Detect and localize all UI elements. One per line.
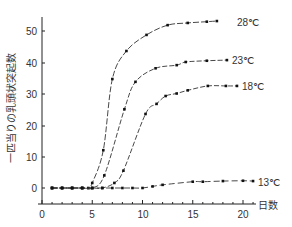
x-tick-20: 20 [237,209,249,220]
data-point [207,85,210,88]
series-layer [51,20,255,190]
x-axis-title: 日数 [258,199,278,211]
data-point [166,24,169,27]
data-point [226,59,229,62]
x-axis [38,200,256,204]
y-axis-title: 一匹当りの乳頭状突起数 [5,53,17,163]
data-point [175,64,178,67]
y-tick-30: 30 [26,89,38,100]
y-tick-40: 40 [26,58,38,69]
data-point [252,180,255,183]
data-point [103,174,106,177]
data-point [186,22,189,25]
data-point [111,78,114,81]
data-point [164,95,167,98]
data-point [91,187,94,190]
data-point [125,50,128,53]
data-point [134,81,137,84]
data-point [71,187,74,190]
data-point [111,187,114,190]
data-point [101,187,104,190]
data-point [222,180,225,183]
series-13c [51,179,255,189]
data-point [155,103,158,106]
data-point [184,61,187,64]
data-point [122,169,125,172]
data-point [242,179,245,182]
series-28c [51,20,218,190]
data-point [161,184,164,187]
data-point [154,67,157,70]
x-tick-0: 0 [39,209,45,220]
x-tick-10: 10 [137,209,149,220]
data-point [202,180,205,183]
series-18c [51,85,239,190]
y-tick-20: 20 [26,121,38,132]
data-point [206,59,209,62]
y-tick-labels: 0 10 20 30 40 50 [26,26,38,194]
data-point [131,187,134,190]
line-chart: 0 10 20 30 40 50 0 5 10 15 20 日数 一匹当りの乳頭… [0,0,292,227]
y-tick-10: 10 [26,152,38,163]
data-point [236,85,239,88]
data-point [123,108,126,111]
data-point [175,92,178,95]
data-point [186,89,189,92]
data-point [225,85,228,88]
x-tick-5: 5 [89,209,95,220]
data-point [102,149,105,152]
data-point [191,180,194,183]
y-tick-0: 0 [31,183,37,194]
y-axis [42,17,45,204]
x-tick-15: 15 [187,209,199,220]
data-point [61,187,64,190]
data-point [145,34,148,37]
data-point [144,113,147,116]
series-label-18c: 18℃ [242,81,264,92]
data-point [91,182,94,185]
data-point [121,187,124,190]
series-23c [51,59,228,189]
data-point [151,185,154,188]
y-tick-50: 50 [26,26,38,37]
series-label-23c: 23℃ [232,55,254,66]
data-point [216,20,219,23]
data-point [51,187,54,190]
x-tick-labels: 0 5 10 15 20 [39,209,249,220]
data-point [113,182,116,185]
data-point [141,187,144,190]
series-label-28c: 28℃ [237,17,259,28]
series-label-13c: 13℃ [258,177,280,188]
data-point [206,20,209,23]
data-point [81,187,84,190]
